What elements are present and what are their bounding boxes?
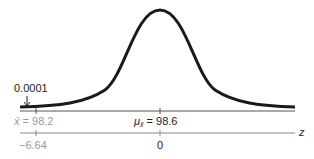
z-left-label: −6.64	[19, 140, 47, 151]
z-zero-label: 0	[157, 140, 163, 151]
z-axis-label: z	[299, 127, 305, 138]
tail-area-label: 0.0001	[14, 83, 48, 94]
normal-curve	[20, 10, 295, 107]
diagram-graphics	[0, 0, 314, 159]
xbar-value: = 98.2	[20, 115, 54, 127]
mu-value: = 98.6	[144, 115, 178, 127]
mu-label: μx̄ = 98.6	[134, 116, 177, 128]
xbar-label: x̄ = 98.2	[14, 116, 53, 127]
normal-distribution-diagram: 0.0001 x̄ = 98.2 μx̄ = 98.6 −6.64 0 z	[0, 0, 314, 159]
